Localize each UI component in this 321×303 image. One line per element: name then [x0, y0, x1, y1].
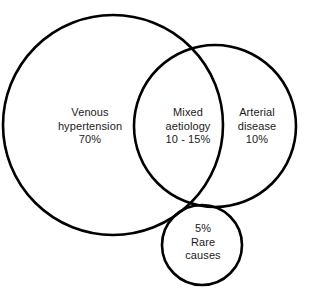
venous-hypertension-label: Venous hypertension 70%: [22, 106, 158, 147]
mixed-aetiology-label: Mixed aetiology 10 - 15%: [150, 106, 226, 147]
arterial-label-line-2: disease: [222, 120, 292, 134]
venn-diagram: Venous hypertension 70% Mixed aetiology …: [0, 0, 321, 303]
mixed-label-line-2: aetiology: [150, 120, 226, 134]
venous-label-line-2: hypertension: [22, 120, 158, 134]
arterial-disease-label: Arterial disease 10%: [222, 106, 292, 147]
venn-diagram-canvas: [0, 0, 321, 303]
arterial-label-line-1: Arterial: [222, 106, 292, 120]
rare-label-line-3: causes: [164, 249, 242, 263]
venous-label-value: 70%: [22, 133, 158, 147]
venous-label-line-1: Venous: [22, 106, 158, 120]
rare-label-value: 5%: [164, 222, 242, 236]
rare-label-line-2: Rare: [164, 236, 242, 250]
mixed-label-line-1: Mixed: [150, 106, 226, 120]
arterial-label-value: 10%: [222, 133, 292, 147]
rare-causes-label: 5% Rare causes: [164, 222, 242, 263]
mixed-label-value: 10 - 15%: [150, 133, 226, 147]
